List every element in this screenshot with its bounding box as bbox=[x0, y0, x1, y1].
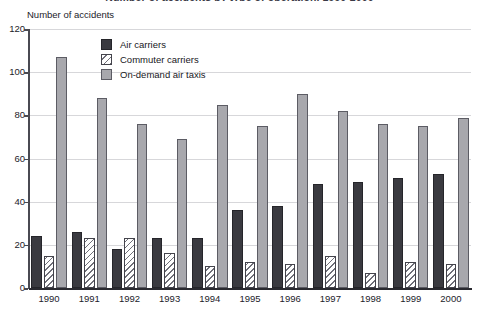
bar-air-1992 bbox=[112, 249, 123, 288]
x-tick-label-1992: 1992 bbox=[109, 294, 149, 304]
bar-air-1999 bbox=[393, 178, 404, 288]
bar-air-2000 bbox=[433, 174, 444, 288]
legend-swatch-commuter-icon bbox=[101, 54, 112, 65]
x-tick-label-1998: 1998 bbox=[350, 294, 390, 304]
x-tick-label-1990: 1990 bbox=[29, 294, 69, 304]
bar-commuter-2000 bbox=[446, 264, 457, 288]
bar-air-1991 bbox=[72, 232, 83, 288]
legend-swatch-taxi-icon bbox=[101, 69, 112, 80]
bar-taxi-1998 bbox=[378, 124, 389, 288]
bar-air-1997 bbox=[313, 184, 324, 288]
bar-commuter-1993 bbox=[164, 253, 175, 288]
bar-air-1990 bbox=[31, 236, 42, 288]
bar-taxi-1994 bbox=[217, 105, 228, 288]
legend-item-commuter: Commuter carriers bbox=[101, 53, 206, 65]
bar-taxi-1993 bbox=[177, 139, 188, 288]
bar-taxi-1990 bbox=[56, 57, 67, 288]
bar-commuter-1992 bbox=[124, 238, 135, 288]
bar-taxi-1997 bbox=[338, 111, 349, 288]
x-tick-label-1991: 1991 bbox=[69, 294, 109, 304]
bar-commuter-1996 bbox=[285, 264, 296, 288]
x-tick-label-1994: 1994 bbox=[190, 294, 230, 304]
legend-item-taxi: On-demand air taxis bbox=[101, 68, 206, 80]
bar-taxi-1991 bbox=[97, 98, 108, 288]
y-tick-label: 20 bbox=[0, 240, 25, 250]
y-tick-label: 40 bbox=[0, 197, 25, 207]
plot-area bbox=[29, 29, 471, 288]
legend-label: Air carriers bbox=[120, 39, 166, 50]
y-tick-label: 0 bbox=[0, 283, 25, 293]
legend-label: Commuter carriers bbox=[120, 54, 199, 65]
y-tick-label: 80 bbox=[0, 110, 25, 120]
bar-commuter-1997 bbox=[325, 256, 336, 288]
x-axis-line bbox=[29, 288, 472, 290]
x-tick-label-1997: 1997 bbox=[310, 294, 350, 304]
bar-taxi-1995 bbox=[257, 126, 268, 288]
bar-taxi-1992 bbox=[137, 124, 148, 288]
bar-commuter-1995 bbox=[245, 262, 256, 288]
bar-air-1996 bbox=[272, 206, 283, 288]
chart-legend: Air carriersCommuter carriersOn-demand a… bbox=[101, 38, 206, 80]
bar-taxi-1996 bbox=[297, 94, 308, 288]
chart-title: Number of accidents by type of operation… bbox=[0, 0, 479, 1]
bar-air-1998 bbox=[353, 182, 364, 288]
legend-label: On-demand air taxis bbox=[120, 69, 206, 80]
bar-taxi-2000 bbox=[458, 118, 469, 289]
bar-commuter-1990 bbox=[44, 256, 55, 288]
y-tick-label: 100 bbox=[0, 67, 25, 77]
y-axis-title: Number of accidents bbox=[27, 9, 114, 20]
legend-item-air: Air carriers bbox=[101, 38, 206, 50]
bar-air-1994 bbox=[192, 238, 203, 288]
x-tick-label-2000: 2000 bbox=[431, 294, 471, 304]
y-tick-label: 60 bbox=[0, 154, 25, 164]
bar-commuter-1994 bbox=[205, 266, 216, 288]
legend-swatch-air-icon bbox=[101, 39, 112, 50]
x-tick-label-1999: 1999 bbox=[391, 294, 431, 304]
x-tick-label-1996: 1996 bbox=[270, 294, 310, 304]
x-tick-label-1995: 1995 bbox=[230, 294, 270, 304]
y-tick-label: 120 bbox=[0, 24, 25, 34]
bar-commuter-1999 bbox=[405, 262, 416, 288]
x-tick-label-1993: 1993 bbox=[150, 294, 190, 304]
bar-commuter-1998 bbox=[365, 273, 376, 288]
bar-air-1995 bbox=[232, 210, 243, 288]
accidents-bar-chart: Number of accidents by type of operation… bbox=[0, 0, 479, 313]
bar-commuter-1991 bbox=[84, 238, 95, 288]
bar-air-1993 bbox=[152, 238, 163, 288]
bar-taxi-1999 bbox=[418, 126, 429, 288]
